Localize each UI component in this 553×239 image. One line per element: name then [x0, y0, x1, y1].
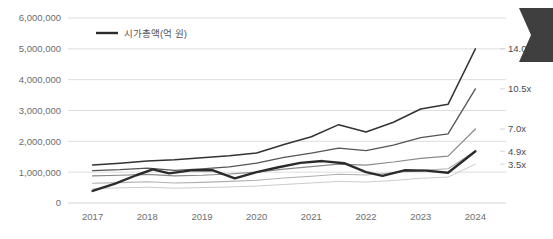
x-tick-label-2020: 2020 — [246, 211, 267, 222]
x-tick-label-2018: 2018 — [137, 211, 158, 222]
y-tick-label-6000000: 6,000,000 — [19, 12, 61, 23]
right-label-4.9x: 4.9x — [508, 146, 526, 157]
right-label-3.5x: 3.5x — [508, 159, 526, 170]
y-tick-label-5000000: 5,000,000 — [19, 43, 61, 54]
x-tick-label-2021: 2021 — [301, 211, 322, 222]
y-tick-label-3000000: 3,000,000 — [19, 105, 61, 116]
series-line-14.0x — [93, 49, 476, 165]
right-label-7.0x: 7.0x — [508, 123, 526, 134]
chart-legend: 시가총액(억 원) — [96, 28, 187, 39]
right-multiple-labels: 14.0x10.5x7.0x4.9x3.5x — [500, 43, 531, 169]
series-lines — [93, 49, 476, 191]
y-tick-label-0: 0 — [56, 197, 61, 208]
x-tick-label-2017: 2017 — [82, 211, 103, 222]
x-tick-label-2019: 2019 — [191, 211, 212, 222]
corner-decoration — [519, 8, 553, 62]
y-axis-tick-labels: 01,000,0002,000,0003,000,0004,000,0005,0… — [19, 12, 61, 208]
x-tick-label-2022: 2022 — [355, 211, 376, 222]
market-cap-multiple-chart: 01,000,0002,000,0003,000,0004,000,0005,0… — [0, 0, 553, 239]
right-label-10.5x: 10.5x — [508, 83, 531, 94]
x-axis-tick-labels: 20172018201920202021202220232024 — [82, 211, 486, 222]
y-tick-label-4000000: 4,000,000 — [19, 74, 61, 85]
y-tick-label-2000000: 2,000,000 — [19, 136, 61, 147]
chart-canvas: 01,000,0002,000,0003,000,0004,000,0005,0… — [0, 0, 553, 239]
x-tick-label-2023: 2023 — [410, 211, 431, 222]
chevron-left-marker — [519, 8, 553, 62]
y-tick-label-1000000: 1,000,000 — [19, 167, 61, 178]
legend-label: 시가총액(억 원) — [124, 28, 187, 39]
x-tick-label-2024: 2024 — [465, 211, 486, 222]
